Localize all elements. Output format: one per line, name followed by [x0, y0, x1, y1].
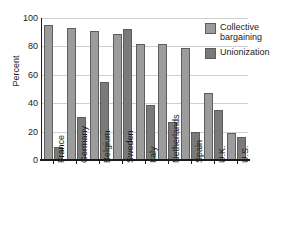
bar[interactable] [136, 44, 145, 160]
x-tickmark [99, 161, 100, 164]
bar[interactable] [90, 31, 99, 160]
bar[interactable] [158, 44, 167, 160]
y-tick-label-20: 20 [12, 128, 38, 137]
bar[interactable] [113, 34, 122, 160]
x-tickmark [53, 161, 54, 164]
x-tick-label: U.S. [241, 145, 250, 163]
y-tick-label-60: 60 [12, 71, 38, 80]
y-tick-label-100: 100 [12, 14, 38, 23]
bar[interactable] [181, 48, 190, 160]
grouped-bar-chart: Percent 100806040200 FranceGermanyBelgiu… [0, 0, 297, 234]
x-tick-label: Spain [195, 140, 204, 163]
legend-item[interactable]: Collective bargaining [205, 22, 297, 42]
x-tickmark [76, 161, 77, 164]
y-tick-label-0: 0 [12, 156, 38, 165]
y-axis-tick-labels: 100806040200 [8, 18, 38, 160]
chart-legend: Collective bargainingUnionization [205, 22, 297, 64]
legend-item[interactable]: Unionization [205, 47, 297, 59]
y-axis-line [41, 18, 42, 160]
y-tick-label-80: 80 [12, 42, 38, 51]
x-tick-label: Germany [80, 126, 89, 163]
y-tick-label-40: 40 [12, 99, 38, 108]
x-tick-label: Netherlands [172, 114, 181, 163]
x-tickmark [122, 161, 123, 164]
x-tickmark [237, 161, 238, 164]
x-tick-label: Italy [149, 146, 158, 163]
x-tick-label: U.K. [218, 145, 227, 163]
x-tick-label: Sweden [126, 130, 135, 163]
x-tick-label: Belgium [103, 130, 112, 163]
bar[interactable] [44, 25, 53, 160]
x-tickmark [145, 161, 146, 164]
bar-group [181, 18, 200, 160]
bar[interactable] [204, 93, 213, 160]
legend-label: Unionization [220, 47, 270, 57]
x-tickmark [168, 161, 169, 164]
x-tick-label: France [57, 135, 66, 163]
bar-group [136, 18, 155, 160]
bar[interactable] [227, 133, 236, 160]
legend-label: Collective bargaining [220, 22, 292, 42]
x-tickmark [214, 161, 215, 164]
x-tickmark [191, 161, 192, 164]
unionization-swatch [205, 48, 216, 59]
bar[interactable] [67, 28, 76, 160]
collective-bargaining-swatch [205, 23, 216, 34]
